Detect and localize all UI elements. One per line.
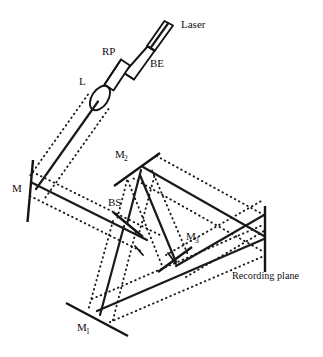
arrow-mark-bs-icon <box>135 246 143 255</box>
beam-core-line <box>140 175 176 262</box>
label-mirror-m1: M 1 <box>77 321 90 336</box>
beam-m3-to-recording-plane <box>166 200 264 278</box>
beam-core-line <box>36 102 98 190</box>
label-recording-plane: Recording plane <box>232 270 300 281</box>
mirror-m1-surface-icon <box>66 303 128 336</box>
label-mirror-m2: M 2 <box>115 148 128 163</box>
beam-edge-line <box>106 256 265 324</box>
mirror-m1 <box>66 303 128 336</box>
label-mirror-m2-sub: 2 <box>124 154 128 163</box>
beam-bs-to-m1 <box>89 221 136 324</box>
label-mirror-m3: M 3 <box>186 230 199 245</box>
label-mirror-m: M <box>12 182 22 194</box>
mirror-m-surface-icon <box>28 160 34 222</box>
beam-edge-line <box>44 109 109 200</box>
label-beam-expander: BE <box>150 57 164 69</box>
mirror-m <box>28 160 34 222</box>
beam-edge-line <box>30 196 140 251</box>
label-mirror-m3-sub: 3 <box>195 236 199 245</box>
optical-setup-figure: Laser BE RP L M M 1 M 2 M 3 BS Recording… <box>0 0 323 357</box>
label-laser: Laser <box>181 18 206 30</box>
label-lens: L <box>79 75 86 87</box>
beam-edge-line <box>92 225 264 300</box>
label-rotating-plate: RP <box>102 45 115 57</box>
beam-edge-line <box>112 233 136 324</box>
beam-edge-line <box>30 95 89 177</box>
optical-diagram-canvas: Laser BE RP L M M 1 M 2 M 3 BS Recording… <box>0 0 323 357</box>
label-mirror-m1-sub: 1 <box>86 327 90 336</box>
beam-edge-line <box>128 181 163 268</box>
label-beam-splitter: BS <box>108 196 121 208</box>
